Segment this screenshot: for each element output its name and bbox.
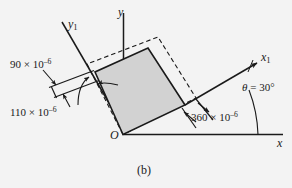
theta-equals: = — [250, 81, 256, 93]
strain-360-exponent: –6 — [230, 110, 238, 119]
y1-axis-label-sub: 1 — [73, 22, 77, 32]
theta-value: 30° — [259, 81, 274, 93]
figure-drawing — [0, 0, 292, 188]
strain-360-base: 10 — [219, 111, 230, 123]
y1-axis-label: y1 — [68, 18, 78, 32]
strain-90-exponent: –6 — [44, 57, 52, 66]
strain-360-times: × — [210, 111, 216, 123]
deformed-element-shaded — [95, 48, 185, 135]
strain-360-mantissa: 360 — [191, 111, 208, 123]
x1-axis-label: x1 — [261, 51, 271, 65]
strain-90-base: 10 — [33, 58, 44, 70]
figure-caption: (b) — [137, 164, 151, 176]
strain-90-times: × — [24, 58, 30, 70]
strain-110-base: 10 — [38, 106, 49, 118]
x-axis-label: x — [277, 137, 282, 149]
leader-90 — [43, 70, 56, 85]
theta-arc — [249, 90, 258, 135]
shear-curved-arrow — [78, 77, 89, 105]
strain-element-figure: y y1 x x1 O 90 × 10–6 110 × 10–6 360 × 1… — [0, 0, 292, 188]
strain-90-mantissa: 90 — [10, 58, 21, 70]
y-axis-label: y — [118, 6, 123, 18]
strain-110-times: × — [29, 106, 35, 118]
strain-110-mantissa: 110 — [10, 106, 26, 118]
strain-label-110: 110 × 10–6 — [10, 106, 57, 118]
x1-axis-label-sub: 1 — [266, 55, 270, 65]
left-dimension-lines — [49, 71, 99, 99]
theta-symbol: θ — [242, 81, 247, 93]
strain-label-90: 90 × 10–6 — [10, 58, 51, 70]
theta-angle-label: θ = 30° — [242, 82, 275, 93]
origin-label: O — [110, 129, 119, 141]
strain-110-exponent: –6 — [49, 105, 57, 114]
leader-110 — [63, 94, 70, 107]
strain-label-360: 360 × 10–6 — [191, 111, 238, 123]
